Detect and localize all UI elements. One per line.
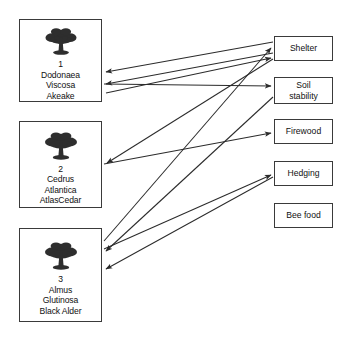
link-shelter-to-species-1-b [106,53,273,84]
species-1-labels: 1 Dodonaea Viscosa Akeake [41,59,80,101]
species-1-species: Viscosa [41,80,80,91]
species-2-number: 2 [40,164,82,175]
link-hedging-to-species-3 [106,177,273,269]
link-species-1-to-soil-stability [104,84,271,86]
link-shelter-to-species-2 [107,59,273,163]
relationship-diagram: 1 Dodonaea Viscosa Akeake 2 Cedrus [0,0,347,341]
link-species-3-to-hedging [104,175,271,249]
link-species-2-to-firewood [104,133,271,164]
species-1-common-name: Akeake [41,91,80,102]
use-node-shelter[interactable]: Shelter [274,36,333,61]
link-species-1-to-shelter [106,58,271,93]
species-node-2[interactable]: 2 Cedrus Atlantica AtlasCedar [19,121,102,208]
use-node-bee-food[interactable]: Bee food [274,203,333,228]
use-node-firewood[interactable]: Firewood [274,119,333,144]
tree-icon [42,130,80,163]
species-2-genus: Cedrus [40,174,82,185]
use-hedging-label: Hedging [287,168,319,179]
species-1-number: 1 [41,59,80,70]
species-2-common-name: AtlasCedar [40,195,82,206]
use-soil-stability-label-line1: Soil [296,80,310,91]
use-node-hedging[interactable]: Hedging [274,161,333,186]
species-3-species: Glutinosa [40,295,82,306]
species-node-3[interactable]: 3 Almus Glutinosa Black Alder [19,228,102,322]
use-node-soil-stability[interactable]: Soil stability [274,77,333,104]
use-soil-stability-label-line2: stability [289,91,318,102]
link-soil-stability-to-species-3 [106,97,273,251]
species-1-genus: Dodonaea [41,70,80,81]
species-3-labels: 3 Almus Glutinosa Black Alder [40,274,82,316]
species-2-species: Atlantica [40,185,82,196]
use-firewood-label: Firewood [286,126,321,137]
use-shelter-label: Shelter [290,43,317,54]
species-3-genus: Almus [40,285,82,296]
species-node-1[interactable]: 1 Dodonaea Viscosa Akeake [19,19,102,102]
use-bee-food-label: Bee food [286,210,320,221]
tree-icon [42,26,80,58]
species-3-number: 3 [40,274,82,285]
link-shelter-to-species-1 [106,42,273,72]
link-species-3-to-shelter [104,48,271,241]
species-3-common-name: Black Alder [40,306,82,317]
species-2-labels: 2 Cedrus Atlantica AtlasCedar [40,164,82,206]
tree-icon [42,240,80,273]
